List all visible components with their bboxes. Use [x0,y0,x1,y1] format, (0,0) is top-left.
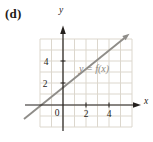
origin-label: 0 [55,108,60,118]
x-tick-label-2: 2 [84,109,89,119]
graph-canvas: (d) y x 4 2 0 2 4 y = f(x) [0,0,153,142]
x-axis-label: x [143,96,149,106]
y-tick-label-4: 4 [44,57,49,67]
y-tick-label-2: 2 [43,79,48,89]
curve-equation-label: y = f(x) [78,63,110,75]
x-tick-label-4: 4 [107,109,112,119]
y-axis-label: y [58,5,64,15]
y-axis-arrowhead-icon [60,26,66,35]
panel-label: (d) [5,6,22,21]
function-graph-figure: (d) y x 4 2 0 2 4 y = f(x) [0,0,153,142]
x-axis-arrowhead-icon [133,102,141,108]
